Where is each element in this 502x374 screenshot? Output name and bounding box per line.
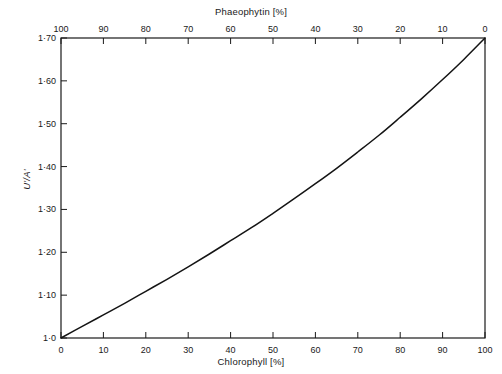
- data-series-curve: [61, 38, 485, 338]
- top-axis-ticks: [61, 38, 485, 44]
- bottom-axis-ticks: [61, 332, 485, 338]
- plot-frame: [61, 38, 485, 338]
- chart-figure: Phaeophytin [%] Chlorophyll [%] U'/A' 10…: [0, 0, 502, 374]
- plot-area: [0, 0, 502, 374]
- y-axis-ticks: [61, 38, 67, 338]
